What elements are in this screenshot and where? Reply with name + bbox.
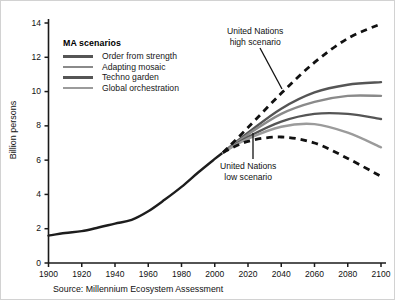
x-tick-label-1920: 1920 bbox=[66, 269, 98, 279]
legend-item-label: Order from strength bbox=[102, 52, 177, 61]
legend-swatch-icon bbox=[63, 87, 93, 90]
x-tick-label-1900: 1900 bbox=[33, 269, 65, 279]
y-tick-label-12: 12 bbox=[15, 52, 41, 62]
x-tick-label-2020: 2020 bbox=[232, 269, 264, 279]
legend-items: Order from strengthAdapting mosaicTechno… bbox=[63, 51, 179, 93]
y-tick-label-14: 14 bbox=[15, 18, 41, 28]
legend-item-techno-garden: Techno garden bbox=[63, 72, 179, 83]
y-tick-label-2: 2 bbox=[15, 223, 41, 233]
legend-item-label: Techno garden bbox=[102, 73, 159, 82]
chart-figure: Billion persons 02468101214 190019201940… bbox=[0, 0, 395, 300]
legend-item-label: Adapting mosaic bbox=[102, 63, 166, 72]
x-tick-label-1960: 1960 bbox=[132, 269, 164, 279]
annotation-un-high-scenario: United Nations high scenario bbox=[227, 26, 283, 47]
legend-swatch-icon bbox=[63, 66, 93, 69]
annotation-un-low-scenario: United Nations low scenario bbox=[220, 161, 276, 182]
leader-line-high bbox=[260, 48, 282, 89]
annotation-un-low-line2: low scenario bbox=[220, 172, 276, 183]
legend-swatch-icon bbox=[63, 55, 93, 58]
chart-plot-area bbox=[1, 1, 396, 301]
source-caption: Source: Millennium Ecosystem Assessment bbox=[53, 284, 223, 294]
x-tick-label-2080: 2080 bbox=[332, 269, 364, 279]
x-tick-label-2000: 2000 bbox=[199, 269, 231, 279]
chart-legend: MA scenarios Order from strengthAdapting… bbox=[63, 39, 179, 93]
y-tick-label-6: 6 bbox=[15, 155, 41, 165]
annotation-un-high-line1: United Nations bbox=[227, 26, 283, 37]
legend-item-label: Global orchestration bbox=[102, 84, 179, 93]
x-tick-label-1980: 1980 bbox=[166, 269, 198, 279]
series-line-historical bbox=[49, 152, 224, 235]
y-tick-label-0: 0 bbox=[15, 258, 41, 268]
annotation-un-low-line1: United Nations bbox=[220, 161, 276, 172]
series-line-global-orchestration bbox=[223, 124, 381, 153]
legend-swatch-icon bbox=[63, 76, 93, 79]
x-tick-label-2060: 2060 bbox=[299, 269, 331, 279]
y-tick-label-4: 4 bbox=[15, 189, 41, 199]
x-tick-label-2100: 2100 bbox=[365, 269, 397, 279]
x-tick-label-2040: 2040 bbox=[265, 269, 297, 279]
y-tick-label-10: 10 bbox=[15, 86, 41, 96]
x-tick-label-1940: 1940 bbox=[99, 269, 131, 279]
legend-item-order-from-strength: Order from strength bbox=[63, 51, 179, 62]
legend-item-global-orchestration: Global orchestration bbox=[63, 83, 179, 94]
legend-title: MA scenarios bbox=[63, 39, 179, 48]
legend-item-adapting-mosaic: Adapting mosaic bbox=[63, 62, 179, 73]
annotation-un-high-line2: high scenario bbox=[227, 37, 283, 48]
y-tick-label-8: 8 bbox=[15, 120, 41, 130]
annotation-leader-lines bbox=[253, 48, 282, 159]
